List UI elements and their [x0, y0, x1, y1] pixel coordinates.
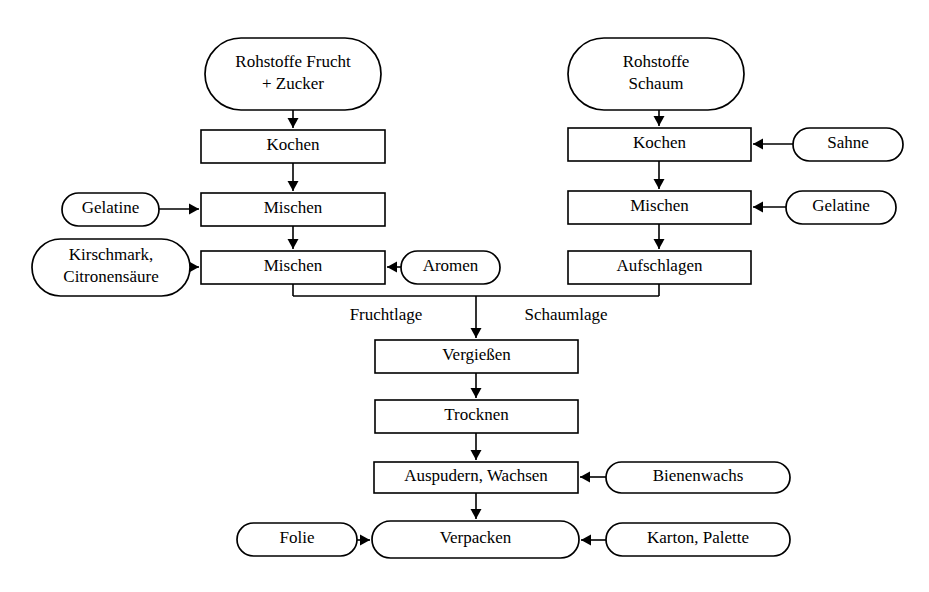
node-mischen-frucht-2[interactable]: Mischen: [201, 251, 385, 284]
node-gelatine-links[interactable]: Gelatine: [62, 193, 159, 226]
edge-kochen-schaum-mischen: [654, 161, 665, 189]
edge-bienenwachs-auspudern: [580, 472, 606, 483]
node-label-gelatine-rechts: Gelatine: [812, 196, 870, 215]
edge-folie-verpacken: [357, 535, 370, 546]
node-label-aufschlagen: Aufschlagen: [617, 256, 703, 275]
node-label-mischen-frucht-1: Mischen: [264, 198, 323, 217]
process-flow-diagram: Rohstoffe Frucht+ ZuckerRohstoffeSchaumK…: [0, 0, 929, 592]
edge-mischen-schaum-aufschlagen: [654, 224, 665, 249]
node-label-bienenwachs: Bienenwachs: [653, 466, 744, 485]
flowchart-canvas: Rohstoffe Frucht+ ZuckerRohstoffeSchaumK…: [0, 0, 929, 592]
node-karton-palette[interactable]: Karton, Palette: [606, 523, 790, 556]
node-label-vergiessen: Vergießen: [442, 345, 511, 364]
node-label-kochen-schaum: Kochen: [633, 133, 686, 152]
node-label-verpacken: Verpacken: [440, 528, 512, 547]
edge-sahne-kochen-schaum: [753, 139, 793, 150]
node-rohstoffe-frucht[interactable]: Rohstoffe Frucht+ Zucker: [205, 38, 381, 110]
node-label-sahne: Sahne: [827, 133, 869, 152]
node-kochen-frucht[interactable]: Kochen: [201, 130, 385, 163]
node-label-rohstoffe-frucht: + Zucker: [262, 74, 324, 93]
edge-aromen-mischen2: [387, 262, 401, 273]
node-mischen-frucht-1[interactable]: Mischen: [201, 193, 385, 226]
node-label-kirschmark: Citronensäure: [63, 267, 158, 286]
node-label-rohstoffe-schaum: Schaum: [629, 74, 684, 93]
edge-kochen-frucht-mischen1: [288, 163, 299, 191]
edge-rohstoffe-schaum-kochen: [654, 110, 665, 126]
node-vergiessen[interactable]: Vergießen: [375, 340, 578, 373]
edge-vergiessen-trocknen: [471, 373, 482, 398]
node-label-mischen-schaum: Mischen: [630, 196, 689, 215]
node-trocknen[interactable]: Trocknen: [375, 400, 578, 433]
node-label-kirschmark: Kirschmark,: [69, 245, 154, 264]
edge-merge-vergiessen: [471, 296, 482, 338]
node-auspudern-wachsen[interactable]: Auspudern, Wachsen: [374, 462, 578, 493]
node-mischen-schaum[interactable]: Mischen: [568, 191, 751, 224]
node-label-gelatine-links: Gelatine: [82, 198, 140, 217]
node-label-auspudern-wachsen: Auspudern, Wachsen: [404, 466, 548, 485]
edge-gelatine-rechts-mischen: [753, 202, 786, 213]
node-label-rohstoffe-frucht: Rohstoffe Frucht: [235, 52, 351, 71]
edge-label-layer: FruchtlageSchaumlage: [350, 305, 608, 324]
edge-mischen1-mischen2: [288, 226, 299, 249]
node-gelatine-rechts[interactable]: Gelatine: [786, 191, 896, 224]
edge-label-fruchtlage: Fruchtlage: [350, 305, 423, 324]
edge-rohstoffe-frucht-kochen: [288, 110, 299, 128]
edge-label-schaumlage: Schaumlage: [524, 305, 607, 324]
node-rohstoffe-schaum[interactable]: RohstoffeSchaum: [568, 38, 744, 110]
node-aromen[interactable]: Aromen: [401, 251, 500, 284]
node-sahne[interactable]: Sahne: [793, 128, 903, 161]
node-folie[interactable]: Folie: [237, 523, 357, 556]
node-verpacken[interactable]: Verpacken: [372, 521, 579, 558]
node-label-kochen-frucht: Kochen: [267, 135, 320, 154]
edge-gelatine-links-mischen1: [159, 204, 199, 215]
edge-trocknen-auspudern: [471, 433, 482, 460]
edge-auspudern-verpacken: [471, 493, 482, 519]
node-layer: Rohstoffe Frucht+ ZuckerRohstoffeSchaumK…: [32, 38, 903, 558]
node-kochen-schaum[interactable]: Kochen: [568, 128, 751, 161]
node-label-aromen: Aromen: [423, 256, 479, 275]
node-bienenwachs[interactable]: Bienenwachs: [606, 462, 790, 493]
node-kirschmark[interactable]: Kirschmark,Citronensäure: [32, 239, 190, 296]
node-label-karton-palette: Karton, Palette: [647, 528, 749, 547]
node-label-folie: Folie: [280, 528, 315, 547]
edge-karton-verpacken: [581, 535, 606, 546]
node-aufschlagen[interactable]: Aufschlagen: [568, 251, 751, 284]
node-label-mischen-frucht-2: Mischen: [264, 256, 323, 275]
node-label-rohstoffe-schaum: Rohstoffe: [623, 52, 690, 71]
node-label-trocknen: Trocknen: [444, 405, 509, 424]
